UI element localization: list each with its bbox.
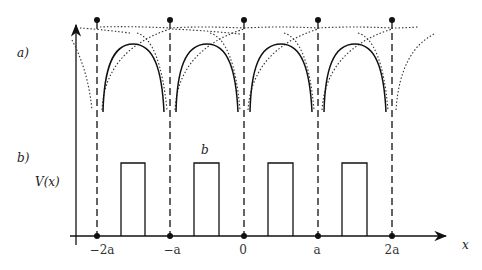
- lattice-ions-top: [94, 17, 395, 23]
- y-axis-label: V(x): [35, 175, 60, 189]
- x-axis-label: x: [462, 238, 469, 252]
- tick-zero: 0: [239, 243, 247, 257]
- tick-2a: 2a: [385, 243, 400, 257]
- tick-minus-a: −a: [163, 243, 180, 257]
- tick-minus-2a: −2a: [90, 243, 115, 257]
- panel-a-label: a): [17, 46, 29, 60]
- tick-a: a: [313, 243, 320, 257]
- kronig-penney-figure: a) b) V(x) b x −2a −a 0 a 2a: [0, 0, 482, 270]
- panel-b-label: b): [17, 151, 29, 165]
- lattice-lines: [97, 22, 392, 236]
- single-ion-potentials: [72, 27, 436, 110]
- barrier-width-label: b: [201, 143, 209, 157]
- diagram-canvas: [0, 0, 482, 270]
